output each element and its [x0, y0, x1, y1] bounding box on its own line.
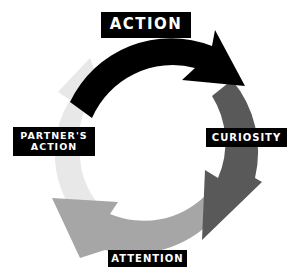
partners-action-line2: ACTION — [31, 142, 77, 153]
stage-label-partners-action: PARTNER'S ACTION — [13, 127, 95, 156]
arrow-attention — [52, 196, 215, 258]
arrow-curiosity — [202, 80, 262, 240]
stage-label-action: ACTION — [101, 12, 191, 38]
stage-label-curiosity: CURIOSITY — [206, 128, 287, 147]
stage-label-attention: ATTENTION — [108, 250, 187, 267]
partners-action-line1: PARTNER'S — [20, 131, 87, 142]
